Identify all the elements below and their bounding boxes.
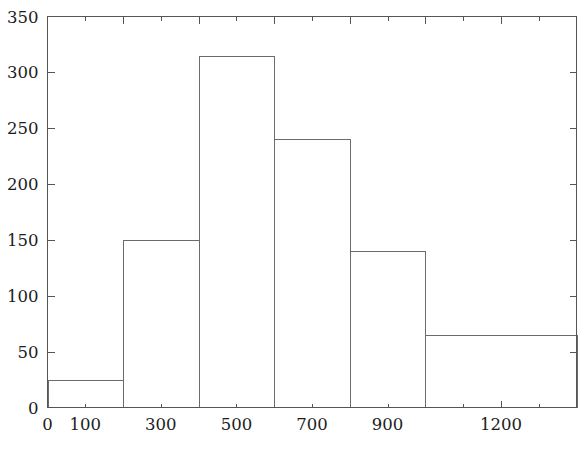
- plot-frame-box: [48, 17, 577, 408]
- histogram-plot: 050100150200250300350 010030050070090012…: [0, 0, 584, 449]
- y-axis-tick-label: 200: [7, 175, 39, 194]
- x-axis-tick-label: 300: [145, 415, 177, 434]
- y-axis-tick-label: 350: [7, 8, 39, 27]
- x-axis-tick-label: 900: [372, 415, 404, 434]
- y-axis-tick-label: 0: [28, 399, 39, 418]
- x-axis-tick-label-group: 01003005007009001200: [42, 415, 522, 434]
- y-axis-tick-label-group: 050100150200250300350: [7, 8, 39, 418]
- histogram-bar: [351, 252, 426, 408]
- histogram-bar: [49, 381, 124, 408]
- y-axis-tick-label: 50: [18, 343, 39, 362]
- x-axis-tick-label: 0: [42, 415, 53, 434]
- histogram-figure: 050100150200250300350 010030050070090012…: [0, 0, 584, 449]
- x-axis-tick-label: 500: [221, 415, 253, 434]
- y-axis-tick-label: 250: [7, 119, 39, 138]
- histogram-bars-group: [49, 57, 578, 408]
- axis-tick-mark-group: [48, 17, 577, 408]
- y-axis-tick-label: 100: [7, 287, 39, 306]
- histogram-bar: [426, 336, 578, 408]
- histogram-bar: [124, 241, 200, 408]
- histogram-bar: [200, 57, 275, 408]
- x-axis-tick-label: 700: [296, 415, 328, 434]
- y-axis-tick-label: 150: [7, 231, 39, 250]
- histogram-bar: [275, 140, 351, 408]
- x-axis-tick-label: 100: [70, 415, 102, 434]
- x-axis-tick-label: 1200: [480, 415, 522, 434]
- y-axis-tick-label: 300: [7, 63, 39, 82]
